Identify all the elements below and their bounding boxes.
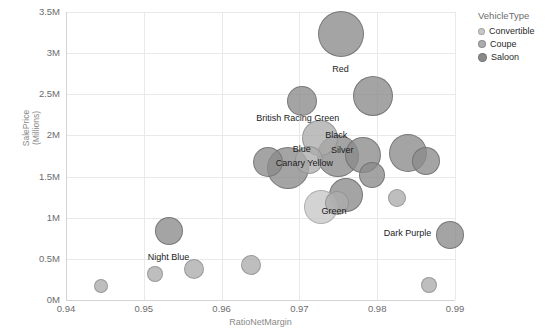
x-tick-label: 0.95	[135, 303, 154, 314]
y-tick-label: 1.5M	[14, 171, 60, 182]
bubble-point[interactable]	[94, 279, 108, 293]
gridline-horizontal	[66, 12, 455, 13]
gridline-horizontal	[66, 177, 455, 178]
bubble-point[interactable]	[155, 217, 183, 245]
y-axis-title: SalePrice (Millions)	[21, 91, 41, 165]
bubble-point[interactable]	[359, 162, 385, 188]
legend-swatch-circle-icon	[478, 53, 487, 62]
legend-item-label: Coupe	[490, 39, 517, 49]
legend-item-saloon[interactable]: Saloon	[478, 52, 548, 62]
legend-items: ConvertibleCoupeSaloon	[478, 26, 548, 62]
bubble-data-label: British Racing Green	[256, 113, 339, 123]
gridline-horizontal	[66, 53, 455, 54]
legend-title: VehicleType	[478, 10, 548, 21]
x-tick-label: 0.98	[368, 303, 387, 314]
gridline-vertical	[455, 12, 456, 300]
y-tick-label: 3M	[14, 47, 60, 58]
bubble-data-label: Night Blue	[148, 252, 190, 262]
x-tick-label: 0.99	[446, 303, 465, 314]
x-axis-title: RatioNetMargin	[66, 317, 455, 327]
bubble-point[interactable]	[241, 255, 261, 275]
y-tick-label: 3.5M	[14, 6, 60, 17]
x-axis-line	[66, 300, 455, 301]
gridline-vertical	[222, 12, 223, 300]
plot-area: RedBritish Racing GreenCanary YellowSilv…	[66, 12, 455, 300]
bubble-data-label: Black	[325, 130, 347, 140]
x-tick-label: 0.97	[290, 303, 309, 314]
bubble-point[interactable]	[421, 277, 437, 293]
y-tick-label: 0.5M	[14, 253, 60, 264]
y-tick-label: 0M	[14, 294, 60, 305]
legend: VehicleType ConvertibleCoupeSaloon	[478, 10, 548, 65]
bubble-point[interactable]	[287, 86, 317, 116]
bubble-point[interactable]	[436, 221, 464, 249]
gridline-horizontal	[66, 94, 455, 95]
bubble-data-label: Dark Purple	[384, 228, 432, 238]
x-tick-label: 0.96	[212, 303, 231, 314]
x-tick-label: 0.94	[57, 303, 76, 314]
bubble-data-label: Green	[322, 206, 347, 216]
bubble-point[interactable]	[388, 189, 406, 207]
y-tick-label: 1M	[14, 212, 60, 223]
legend-item-convertible[interactable]: Convertible	[478, 26, 548, 36]
bubble-point[interactable]	[412, 147, 440, 175]
gridline-horizontal	[66, 218, 455, 219]
gridline-horizontal	[66, 259, 455, 260]
bubble-point[interactable]	[353, 76, 393, 116]
y-axis-line	[66, 12, 67, 300]
legend-item-label: Saloon	[491, 52, 519, 62]
legend-swatch-circle-icon	[478, 28, 485, 35]
bubble-point[interactable]	[147, 266, 163, 282]
legend-swatch-circle-icon	[478, 40, 486, 48]
bubble-point[interactable]	[184, 259, 204, 279]
bubble-chart: RedBritish Racing GreenCanary YellowSilv…	[0, 0, 550, 331]
gridline-vertical	[144, 12, 145, 300]
bubble-data-label: Red	[332, 64, 349, 74]
legend-item-label: Convertible	[489, 26, 535, 36]
bubble-point[interactable]	[318, 11, 364, 57]
bubble-data-label: Blue	[293, 144, 311, 154]
bubble-data-label: Canary Yellow	[276, 158, 333, 168]
legend-item-coupe[interactable]: Coupe	[478, 39, 548, 49]
bubble-data-label: Silver	[331, 145, 354, 155]
